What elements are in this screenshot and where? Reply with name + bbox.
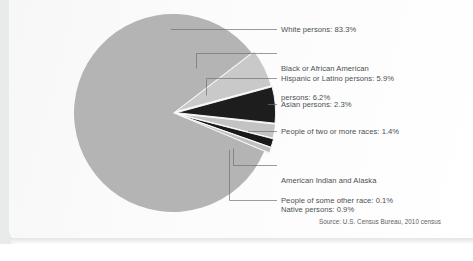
callout-hispanic-latino: Hispanic or Latino persons: 5.9%	[281, 74, 394, 84]
callout-white-persons: White persons: 83.3%	[281, 25, 356, 35]
source-attribution: Source: U.S. Census Bureau, 2010 census	[319, 218, 441, 225]
callout-black-line-1: Black or African American	[281, 64, 369, 74]
callout-native-line-2: Native persons: 0.9%	[281, 205, 376, 215]
pie-slices	[74, 14, 276, 212]
callout-asian-persons: Asian persons: 2.3%	[281, 100, 352, 110]
callout-two-or-more-races: People of two or more races: 1.4%	[281, 127, 399, 137]
page-root: White persons: 83.3% Black or African Am…	[0, 0, 473, 261]
callout-some-other-race: People of some other race: 0.1%	[281, 196, 393, 206]
callout-native-line-1: American Indian and Alaska	[281, 176, 376, 186]
pie-chart-figure: White persons: 83.3% Black or African Am…	[0, 0, 473, 261]
